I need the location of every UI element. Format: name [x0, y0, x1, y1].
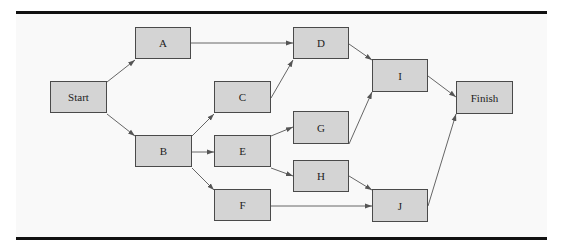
node-label: I	[398, 70, 402, 82]
node-label: E	[239, 145, 246, 157]
node-label: G	[317, 122, 325, 134]
edge-start-a	[107, 60, 135, 82]
edge-h-j	[349, 176, 372, 190]
node-label: B	[160, 145, 167, 157]
edge-i-finish	[428, 76, 456, 97]
node-label: H	[317, 170, 325, 182]
node-label: C	[239, 91, 246, 103]
node-d: D	[293, 27, 349, 59]
node-a: A	[135, 27, 191, 59]
node-start: Start	[50, 81, 107, 113]
node-label: Start	[68, 91, 89, 103]
node-f: F	[214, 189, 271, 221]
edge-e-g	[271, 127, 293, 136]
node-h: H	[293, 160, 349, 192]
node-i: I	[372, 59, 428, 92]
node-b: B	[135, 135, 192, 167]
edge-start-b	[107, 114, 135, 136]
edge-b-c	[192, 114, 214, 136]
node-label: D	[317, 37, 325, 49]
edges-layer	[0, 0, 567, 246]
node-finish: Finish	[456, 81, 513, 114]
node-label: J	[398, 200, 402, 212]
node-e: E	[214, 135, 271, 167]
edge-d-i	[349, 44, 372, 60]
edge-j-finish	[428, 114, 456, 206]
edge-b-f	[192, 168, 214, 190]
node-label: F	[239, 199, 245, 211]
node-j: J	[372, 189, 428, 222]
node-label: A	[159, 37, 167, 49]
node-g: G	[293, 111, 349, 144]
node-label: Finish	[471, 92, 499, 104]
node-c: C	[214, 81, 271, 113]
edge-g-i	[349, 92, 372, 144]
edge-e-h	[271, 168, 293, 176]
edge-c-d	[271, 60, 293, 98]
